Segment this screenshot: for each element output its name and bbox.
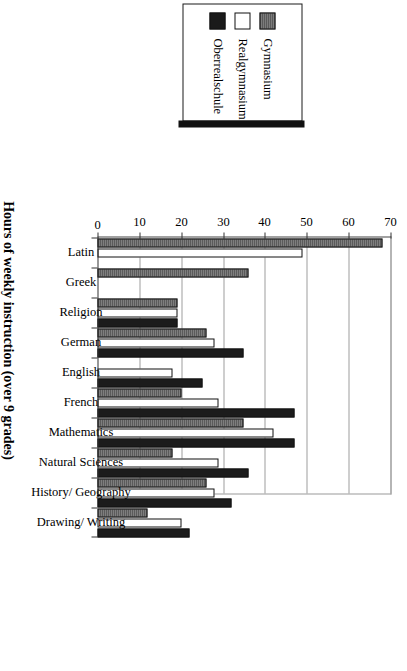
bar-group: History/ Geography	[97, 477, 390, 507]
legend-swatch-realgymnasium-icon	[234, 12, 250, 29]
category-tick	[91, 327, 97, 328]
bar-group: Natural Sciences	[97, 447, 390, 477]
category-label: Drawing/ Writing	[36, 515, 125, 530]
category-tick	[91, 357, 97, 358]
bar-oberrealschule	[97, 438, 294, 447]
category-label: German	[60, 335, 100, 350]
category-label: Latin	[67, 245, 93, 260]
bar-group: English	[97, 357, 390, 387]
category-tick	[91, 507, 97, 508]
value-axis-title: Hours of weekly instruction (over 9 grad…	[0, 160, 15, 500]
bar-group: Religion	[97, 297, 390, 327]
category-label: Greek	[65, 275, 96, 290]
bar-gymnasium	[97, 418, 244, 427]
category-tick	[91, 536, 97, 537]
legend-item-gymnasium: Gymnasium	[259, 12, 275, 112]
bar-gymnasium	[97, 328, 206, 337]
bar-gymnasium	[97, 238, 382, 247]
legend-label-gymnasium: Gymnasium	[261, 38, 274, 99]
category-label: Mathematics	[48, 425, 113, 440]
bar-realgymnasium	[97, 428, 273, 437]
bar-group: French	[97, 387, 390, 417]
bar-group: Drawing/ Writing	[97, 507, 390, 537]
bar-group: Latin	[97, 237, 390, 267]
category-label: English	[61, 365, 99, 380]
bar-realgymnasium	[97, 398, 218, 407]
category-label: French	[63, 395, 98, 410]
legend-item-realgymnasium: Realgymnasium	[234, 12, 250, 112]
plot-area-wrapper: 010203040506070 LatinGreekReligionGerman…	[61, 160, 391, 500]
category-label: History/ Geography	[31, 485, 131, 500]
axis-tick-label: 0	[94, 217, 100, 232]
legend-swatch-oberrealschule-icon	[209, 12, 225, 29]
legend-item-oberrealschule: Oberrealschule	[209, 12, 225, 112]
value-axis-baseline	[97, 237, 98, 493]
bar-oberrealschule	[97, 378, 202, 387]
bar-realgymnasium	[97, 338, 214, 347]
axis-tick-label: 50	[300, 214, 313, 229]
category-label: Religion	[59, 305, 102, 320]
category-label: Natural Sciences	[38, 455, 122, 470]
bar-oberrealschule	[97, 348, 244, 357]
bar-group: Greek	[97, 267, 390, 297]
category-tick	[91, 447, 97, 448]
category-tick	[91, 417, 97, 418]
axis-tick-label: 10	[133, 214, 146, 229]
category-tick	[91, 297, 97, 298]
bar-group: German	[97, 327, 390, 357]
bar-realgymnasium	[97, 368, 172, 377]
axis-tick-label: 20	[174, 214, 187, 229]
category-tick	[91, 477, 97, 478]
axis-tick-label: 60	[342, 214, 355, 229]
axis-tick-label: 30	[216, 214, 229, 229]
chart-legend: Gymnasium Realgymnasium Oberrealschule	[182, 3, 302, 121]
category-tick	[91, 267, 97, 268]
axis-tick-label: 40	[258, 214, 271, 229]
bar-gymnasium	[97, 268, 248, 277]
bar-oberrealschule	[97, 408, 294, 417]
legend-swatch-gymnasium-icon	[259, 12, 275, 29]
bar-realgymnasium	[97, 248, 302, 257]
category-tick	[91, 387, 97, 388]
category-tick	[91, 237, 97, 238]
bar-gymnasium	[97, 298, 177, 307]
bar-realgymnasium	[97, 308, 177, 317]
plot-area: 010203040506070 LatinGreekReligionGerman…	[97, 236, 391, 494]
bar-oberrealschule	[97, 318, 177, 327]
chart-canvas: Gymnasium Realgymnasium Oberrealschule 0…	[0, 0, 407, 671]
bar-group: Mathematics	[97, 417, 390, 447]
bar-gymnasium	[97, 388, 181, 397]
legend-label-realgymnasium: Realgymnasium	[236, 38, 249, 119]
bar-groups: LatinGreekReligionGermanEnglishFrenchMat…	[97, 237, 390, 493]
axis-tick-label: 70	[384, 214, 397, 229]
legend-label-oberrealschule: Oberrealschule	[211, 38, 224, 114]
